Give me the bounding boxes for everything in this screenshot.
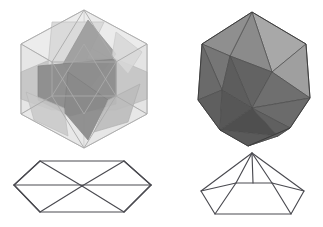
opaque-facets <box>198 12 310 146</box>
figure-pyramid-wireframe <box>196 150 308 220</box>
pyramid-edges <box>201 153 304 214</box>
antiprism-edges <box>14 161 151 212</box>
figure-transparent-icosahedron <box>8 4 160 152</box>
figure-board <box>0 0 323 227</box>
figure-opaque-icosahedron <box>186 4 318 152</box>
figure-antiprism-wireframe <box>10 155 155 221</box>
